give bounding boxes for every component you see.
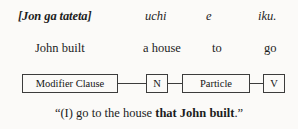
node-verb: V [263, 74, 285, 93]
connector-particle-to-verb [250, 83, 263, 84]
english-gloss-to: to [212, 38, 222, 58]
japanese-transcription-line: [Jon ga tateta] uchi e iku. [0, 6, 298, 26]
translation-bold-relative-clause: that John built [155, 106, 234, 120]
translation-plain-before: (I) go to the house [60, 106, 155, 120]
node-modifier-clause: Modifier Clause [22, 74, 118, 93]
connector-noun-to-particle [168, 83, 182, 84]
japanese-word-iku: iku. [258, 6, 276, 26]
free-translation: “(I) go to the house that John built.” [0, 104, 298, 122]
english-gloss-go: go [264, 38, 277, 58]
node-noun: N [146, 74, 168, 93]
english-gloss-john-built: John built [35, 38, 85, 58]
node-particle: Particle [182, 74, 250, 93]
quote-close: ” [238, 106, 244, 120]
connector-modifier-to-noun [118, 83, 146, 84]
english-gloss-line: John built a house to go [0, 38, 298, 58]
linguistic-gloss-figure: [Jon ga tateta] uchi e iku. John built a… [0, 0, 298, 129]
japanese-word-e: e [206, 6, 212, 26]
japanese-word-uchi: uchi [145, 6, 167, 26]
english-gloss-a-house: a house [143, 38, 181, 58]
japanese-word-modifier-clause: [Jon ga tateta] [18, 6, 92, 26]
